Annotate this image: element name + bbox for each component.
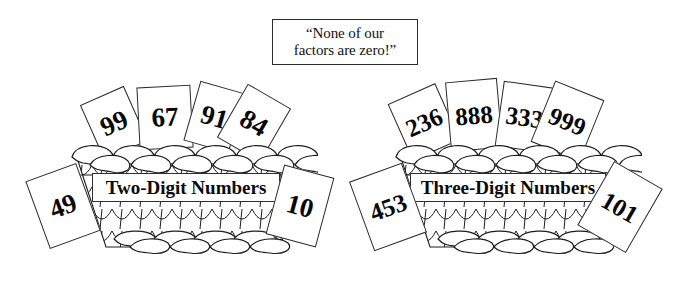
basket-label-two-digit: Two-Digit Numbers [92, 173, 280, 202]
basket-label-text: Two-Digit Numbers [106, 177, 267, 199]
basket-label-three-digit: Three-Digit Numbers [410, 173, 606, 202]
number-card-value: 888 [454, 101, 494, 129]
number-card-value: 453 [366, 189, 410, 225]
number-card-value: 49 [46, 189, 81, 224]
speech-callout-text: “None of our factors are zero!” [294, 25, 396, 59]
speech-callout: “None of our factors are zero!” [272, 19, 418, 65]
illustration-canvas: “None of our factors are zero!” 99679184… [0, 0, 687, 288]
number-card-value: 10 [283, 189, 316, 222]
number-card-value: 101 [598, 187, 643, 227]
number-card-value: 67 [151, 103, 179, 131]
basket-label-text: Three-Digit Numbers [421, 177, 595, 199]
